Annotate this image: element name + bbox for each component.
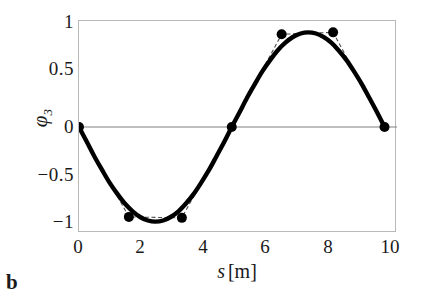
y-tick-label: −1 [28, 212, 74, 231]
plot-area [78, 20, 396, 232]
x-axis-tick-labels: 0 2 4 6 8 10 [0, 236, 425, 262]
x-tick-label: 0 [58, 236, 98, 258]
data-point-marker [227, 122, 237, 132]
y-tick-label: −0.5 [28, 165, 74, 184]
x-axis-symbol: s [217, 260, 225, 282]
x-tick-label: 2 [120, 236, 160, 258]
chart-canvas [79, 21, 397, 233]
x-tick-label: 8 [308, 236, 348, 258]
x-tick-label: 10 [370, 236, 410, 258]
y-axis-subscript: 3 [40, 109, 55, 116]
x-axis-unit: [m] [228, 260, 257, 282]
y-tick-label: 1 [28, 12, 74, 31]
x-tick-label: 6 [245, 236, 285, 258]
data-point-marker [328, 27, 338, 37]
data-point-marker [177, 213, 187, 223]
x-tick-label: 4 [183, 236, 223, 258]
panel-label-b: b [6, 272, 18, 293]
data-point-marker [380, 122, 390, 132]
figure-panel-b: 1 0.5 0 −0.5 −1 φ3 0 2 4 6 8 10 s[m] [0, 0, 425, 304]
data-point-marker [277, 29, 287, 39]
y-axis-symbol: φ [28, 116, 52, 128]
x-axis-title: s[m] [78, 260, 396, 282]
data-point-marker [124, 212, 134, 222]
y-tick-label: 0.5 [28, 59, 74, 78]
y-axis-title: φ3 [28, 88, 56, 148]
